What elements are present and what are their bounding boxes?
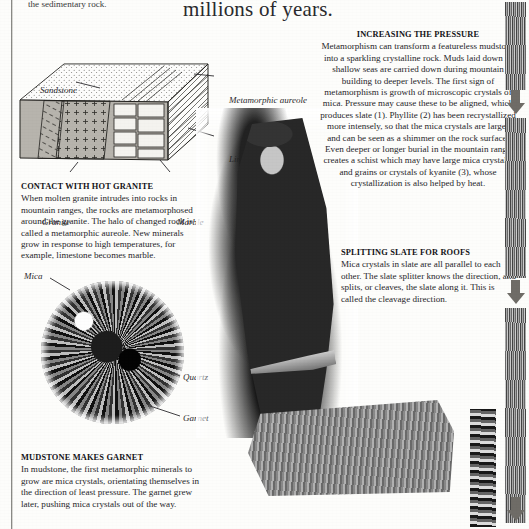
caption-body: When molten granite intrudes into rocks … (21, 193, 193, 260)
rock-sample-strip-column (498, 0, 529, 529)
schist-sample-strip (505, 308, 526, 523)
diagram-label-metamorphic-aureole: Metamorphic aureole (229, 95, 307, 105)
left-margin-rule-shadow (12, 0, 13, 529)
caption-mudstone-makes-garnet: MUDSTONE MAKES GARNET In mudstone, the f… (21, 452, 207, 510)
down-arrow-3-icon (506, 497, 525, 521)
slate-sample-strip (505, 2, 526, 90)
caption-heading: INCREASING THE PRESSURE (320, 29, 516, 40)
caption-body: Mica crystals in slate are all parallel … (341, 259, 516, 303)
down-arrow-2-icon (506, 280, 525, 304)
caption-heading: SPLITTING SLATE FOR ROOFS (341, 247, 516, 258)
slate-slab (248, 398, 454, 496)
block-diagram-svg (18, 54, 214, 176)
diagram-label-sandstone: Sandstone (40, 85, 77, 95)
caption-increasing-the-pressure: INCREASING THE PRESSURE Metamorphism can… (320, 29, 516, 190)
caption-heading: CONTACT WITH HOT GRANITE (21, 181, 201, 192)
caption-splitting-slate-for-roofs: SPLITTING SLATE FOR ROOFS Mica crystals … (341, 247, 516, 305)
caption-body: Metamorphism can transform a featureless… (320, 41, 515, 188)
phyllite-sample-strip (505, 118, 526, 278)
micrograph-label-mica: Mica (24, 271, 43, 281)
running-head: the sedimentary rock. (28, 0, 107, 10)
granite-intrusion-diagram: Sandstone Metamorphic aureole Limestone … (18, 54, 214, 176)
quarry-photo-thumbnail (470, 409, 496, 527)
page-headline: millions of years. (183, 0, 333, 22)
down-arrow-1-icon (506, 90, 525, 114)
caption-heading: MUDSTONE MAKES GARNET (21, 452, 207, 463)
garnet-thin-section-photo (41, 281, 184, 424)
book-page: the sedimentary rock. millions of years. (0, 0, 529, 529)
caption-contact-with-hot-granite: CONTACT WITH HOT GRANITE When molten gra… (21, 181, 201, 262)
caption-body: In mudstone, the first metamorphic miner… (21, 464, 199, 508)
